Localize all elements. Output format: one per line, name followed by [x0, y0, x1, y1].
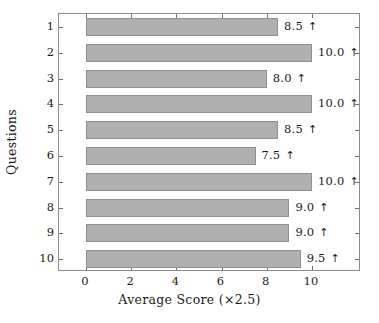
bar-value-label: 10.0↑	[318, 174, 359, 188]
x-axis-tick-label: 6	[217, 274, 225, 288]
y-axis-tick-mark-right	[355, 156, 359, 157]
bar-value-label: 9.0↑	[295, 200, 328, 214]
bar	[86, 18, 278, 36]
up-arrow-icon: ↑	[308, 123, 317, 136]
up-arrow-icon: ↑	[319, 226, 328, 239]
y-axis-tick-mark	[59, 233, 63, 234]
y-axis-tick-label: 10	[39, 251, 54, 265]
y-axis-title: Questions	[4, 109, 19, 175]
y-axis-tick-label: 2	[47, 45, 54, 59]
bar-value-text: 7.5	[262, 148, 281, 162]
bar	[86, 199, 289, 217]
up-arrow-icon: ↑	[349, 175, 358, 188]
up-arrow-icon: ↑	[349, 97, 358, 110]
y-axis-tick-label: 7	[47, 174, 54, 188]
up-arrow-icon: ↑	[297, 72, 306, 85]
y-axis-tick-mark	[59, 27, 63, 28]
y-axis-tick-label: 4	[47, 96, 54, 110]
y-axis-tick-mark-right	[355, 27, 359, 28]
x-axis-tick-label: 8	[262, 274, 270, 288]
x-axis-tick-label: 0	[81, 274, 89, 288]
y-axis-tick-label: 5	[47, 122, 54, 136]
bar	[86, 95, 312, 113]
bar-value-text: 10.0	[318, 45, 344, 59]
y-axis-tick-label: 1	[47, 19, 54, 33]
x-axis-tick-label: 2	[126, 274, 134, 288]
bar-value-label: 10.0↑	[318, 96, 359, 110]
bar-value-label: 8.5↑	[284, 122, 317, 136]
x-axis-tick-mark-top	[312, 14, 313, 18]
bar-value-text: 9.0	[295, 200, 314, 214]
bar-value-text: 8.5	[284, 122, 303, 136]
bar-value-text: 10.0	[318, 174, 344, 188]
bar	[86, 44, 312, 62]
chart-figure: Questions 12345678910 8.5↑10.0↑8.0↑10.0↑…	[0, 0, 379, 323]
bar-value-label: 7.5↑	[262, 148, 295, 162]
up-arrow-icon: ↑	[308, 20, 317, 33]
y-axis-tick-label: 9	[47, 225, 54, 239]
y-axis-title-container: Questions	[2, 13, 20, 271]
y-axis-tick-mark	[59, 130, 63, 131]
x-axis-tick-label: 10	[303, 274, 318, 288]
y-axis-tick-mark	[59, 53, 63, 54]
bar-value-label: 8.5↑	[284, 19, 317, 33]
y-axis-tick-mark	[59, 156, 63, 157]
y-axis-tick-mark-right	[355, 233, 359, 234]
y-axis-tick-label: 6	[47, 148, 54, 162]
y-axis-tick-mark-right	[355, 79, 359, 80]
y-axis-tick-label: 3	[47, 71, 54, 85]
y-axis-tick-mark	[59, 208, 63, 209]
x-axis-tick-mark	[312, 266, 313, 270]
bar	[86, 224, 289, 242]
up-arrow-icon: ↑	[331, 252, 340, 265]
y-axis-tick-mark	[59, 182, 63, 183]
bar	[86, 250, 301, 268]
y-axis-tick-mark	[59, 104, 63, 105]
up-arrow-icon: ↑	[285, 149, 294, 162]
y-axis-tick-mark-right	[355, 208, 359, 209]
up-arrow-icon: ↑	[319, 201, 328, 214]
up-arrow-icon: ↑	[349, 46, 358, 59]
bar-value-label: 8.0↑	[273, 71, 306, 85]
bar	[86, 173, 312, 191]
bar	[86, 70, 267, 88]
y-axis-tick-mark-right	[355, 130, 359, 131]
y-axis-tick-mark-right	[355, 259, 359, 260]
x-axis-tick-label: 4	[172, 274, 180, 288]
bar-value-label: 10.0↑	[318, 45, 359, 59]
bar-value-text: 10.0	[318, 96, 344, 110]
y-axis-tick-mark	[59, 79, 63, 80]
bar	[86, 121, 278, 139]
bar-value-label: 9.5↑	[307, 251, 340, 265]
y-axis-tick-mark	[59, 259, 63, 260]
bar-value-text: 9.5	[307, 251, 326, 265]
bar	[86, 147, 256, 165]
x-axis-title: Average Score (×2.5)	[0, 292, 379, 307]
y-axis-tick-label: 8	[47, 200, 54, 214]
bar-value-text: 8.0	[273, 71, 292, 85]
bar-value-label: 9.0↑	[295, 225, 328, 239]
bar-value-text: 8.5	[284, 19, 303, 33]
bar-value-text: 9.0	[295, 225, 314, 239]
